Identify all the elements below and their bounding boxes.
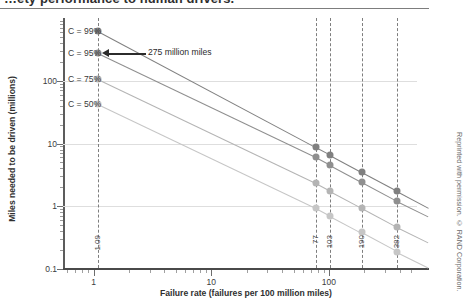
y-tick-label: 0.1 xyxy=(0,264,57,274)
series-segment xyxy=(330,165,362,183)
data-point xyxy=(327,187,334,194)
series-segment xyxy=(98,79,316,184)
x-tick-minor xyxy=(193,270,194,273)
series-segment xyxy=(361,208,397,228)
reference-line-label: 1.09 xyxy=(93,235,102,251)
series-segment xyxy=(330,216,362,234)
chart-figure: …ety performance to human drivers. 10010… xyxy=(0,0,465,298)
data-point xyxy=(312,143,319,150)
series-segment xyxy=(98,104,316,209)
x-tick-minor xyxy=(185,270,186,273)
y-tick-minor xyxy=(60,24,63,25)
x-tick-minor xyxy=(303,270,304,273)
y-tick-minor xyxy=(60,187,63,188)
y-tick-minor xyxy=(60,114,63,115)
gridline-horizontal xyxy=(63,144,417,145)
x-tick xyxy=(94,270,95,276)
reference-line-label: 77 xyxy=(311,235,320,244)
x-tick-minor xyxy=(164,270,165,273)
reference-line-label: 103 xyxy=(325,235,334,248)
data-point xyxy=(358,168,365,175)
y-tick-minor xyxy=(60,239,63,240)
x-tick-minor xyxy=(88,270,89,273)
x-tick-minor xyxy=(324,270,325,273)
reference-line xyxy=(397,18,398,268)
y-axis-title: Miles needed to be driven (millions) xyxy=(7,49,17,249)
series-label: C = 75% xyxy=(68,74,101,84)
x-tick-minor xyxy=(282,270,283,273)
x-tick-minor xyxy=(150,270,151,273)
annotation-leader xyxy=(105,53,146,54)
reference-line-label: 190 xyxy=(357,235,366,248)
x-tick-minor xyxy=(247,270,248,273)
data-point xyxy=(394,187,401,194)
series-segment xyxy=(397,201,429,217)
annotation-label: 275 million miles xyxy=(148,47,212,57)
y-tick-minor xyxy=(60,51,63,52)
x-tick-minor xyxy=(385,270,386,273)
y-tick-minor xyxy=(60,28,63,29)
series-label: C = 50% xyxy=(68,99,101,109)
data-point xyxy=(358,178,365,185)
y-tick-minor xyxy=(60,100,63,101)
x-tick-minor xyxy=(129,270,130,273)
x-tick-minor xyxy=(267,270,268,273)
y-tick-minor xyxy=(60,37,63,38)
credit-text: Reprinted with permission. © RAND Corpor… xyxy=(455,132,464,292)
reference-line-label: 382 xyxy=(392,235,401,248)
data-point xyxy=(394,248,401,255)
y-tick-minor xyxy=(60,21,63,22)
y-tick-minor xyxy=(60,153,63,154)
data-point xyxy=(327,161,334,168)
y-tick-minor xyxy=(60,90,63,91)
series-segment xyxy=(361,172,397,192)
y-tick xyxy=(57,81,63,82)
annotation-arrowhead xyxy=(102,49,109,57)
reference-line xyxy=(330,18,331,268)
x-tick xyxy=(329,270,330,276)
y-tick-minor xyxy=(60,157,63,158)
x-tick-minor xyxy=(364,270,365,273)
data-point xyxy=(358,229,365,236)
y-tick-minor xyxy=(60,220,63,221)
x-tick-minor xyxy=(200,270,201,273)
data-point xyxy=(312,204,319,211)
x-tick-minor xyxy=(206,270,207,273)
data-point xyxy=(394,197,401,204)
y-tick-minor xyxy=(60,212,63,213)
x-tick-minor xyxy=(82,270,83,273)
y-tick-minor xyxy=(60,231,63,232)
y-tick-minor xyxy=(60,250,63,251)
heading-rule xyxy=(0,8,429,9)
y-tick-minor xyxy=(60,168,63,169)
series-segment xyxy=(330,155,362,173)
y-tick xyxy=(57,144,63,145)
x-tick-minor xyxy=(400,270,401,273)
y-tick-minor xyxy=(60,150,63,151)
x-tick-minor xyxy=(75,270,76,273)
y-tick-minor xyxy=(60,176,63,177)
series-label: C = 95% xyxy=(68,48,101,58)
y-tick-minor xyxy=(60,62,63,63)
series-label: C = 99% xyxy=(68,26,101,36)
series-segment xyxy=(361,182,397,202)
y-tick-minor xyxy=(60,32,63,33)
x-tick-minor xyxy=(294,270,295,273)
y-tick-minor xyxy=(60,43,63,44)
x-tick-label: 1 xyxy=(91,277,96,287)
y-tick-minor xyxy=(60,95,63,96)
gridline-horizontal xyxy=(63,81,417,82)
series-segment xyxy=(98,53,316,158)
data-point xyxy=(394,223,401,230)
cut-off-heading-text: …ety performance to human drivers. xyxy=(4,0,234,6)
y-tick-minor xyxy=(60,225,63,226)
y-tick-minor xyxy=(60,125,63,126)
x-tick-label: 100 xyxy=(322,277,336,287)
x-axis-title: Failure rate (failures per 100 million m… xyxy=(63,288,429,298)
data-point xyxy=(312,153,319,160)
x-tick-minor xyxy=(411,270,412,273)
y-tick-minor xyxy=(60,162,63,163)
data-point xyxy=(327,151,334,158)
x-tick-minor xyxy=(67,270,68,273)
x-tick xyxy=(211,270,212,276)
